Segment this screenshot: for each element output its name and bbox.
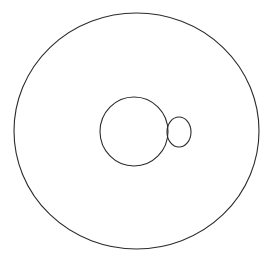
canvas-background — [0, 0, 270, 258]
circles-figure — [0, 0, 270, 258]
diagram-canvas — [0, 0, 270, 258]
